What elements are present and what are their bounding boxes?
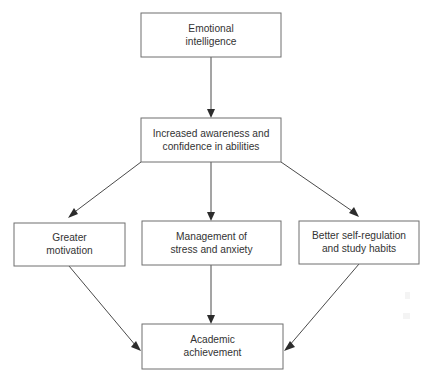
edge-awareness-to-stress bbox=[207, 162, 215, 221]
node-label-line1: Increased awareness and bbox=[153, 128, 270, 139]
scan-artifact bbox=[403, 292, 410, 319]
node-label-line2: intelligence bbox=[186, 36, 237, 47]
node-label-line2: stress and anxiety bbox=[170, 244, 253, 255]
node-label-line2: motivation bbox=[46, 245, 92, 256]
node-label-line1: Better self-regulation bbox=[312, 230, 406, 241]
node-label-line2: achievement bbox=[184, 347, 242, 358]
node-label-line1: Academic bbox=[190, 334, 235, 345]
edge-selfreg-to-academic bbox=[284, 264, 359, 351]
node-emotional-intelligence[interactable]: Emotional intelligence bbox=[141, 13, 281, 57]
node-better-self-regulation[interactable]: Better self-regulation and study habits bbox=[299, 221, 419, 264]
edge-ei-to-awareness bbox=[207, 57, 215, 118]
node-academic-achievement[interactable]: Academic achievement bbox=[142, 324, 283, 369]
edge-awareness-to-selfreg bbox=[281, 162, 359, 217]
node-management-stress-anxiety[interactable]: Management of stress and anxiety bbox=[142, 221, 281, 265]
flowchart-canvas: Emotional intelligence Increased awarene… bbox=[0, 0, 429, 383]
node-label-line1: Emotional bbox=[188, 23, 233, 34]
node-label-line1: Management of bbox=[176, 231, 247, 242]
node-increased-awareness[interactable]: Increased awareness and confidence in ab… bbox=[141, 118, 281, 162]
node-label-line1: Greater bbox=[52, 232, 87, 243]
node-greater-motivation[interactable]: Greater motivation bbox=[14, 223, 125, 266]
edge-awareness-to-motivation bbox=[68, 162, 141, 218]
node-label-line2: and study habits bbox=[322, 243, 396, 254]
edge-stress-to-academic bbox=[207, 265, 215, 324]
node-label-line2: confidence in abilities bbox=[163, 141, 260, 152]
flowchart-diagram: Emotional intelligence Increased awarene… bbox=[0, 0, 429, 383]
edge-motivation-to-academic bbox=[69, 266, 141, 351]
